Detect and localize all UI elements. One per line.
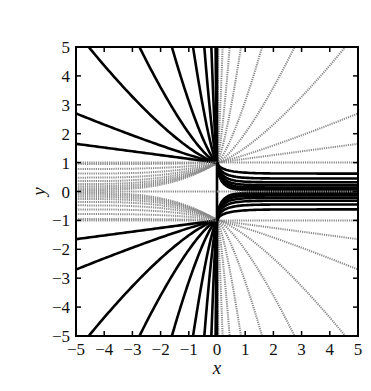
solid-curve: [217, 205, 358, 221]
phase-portrait-chart: −5−4−3−2−1012345 543210−1−2−3−4−5 x y: [0, 0, 371, 391]
y-tick-label: −2: [52, 240, 70, 259]
x-tick-label: 5: [354, 340, 363, 359]
dotted-curve: [217, 220, 345, 336]
y-tick-label: 4: [62, 67, 71, 86]
y-tick-label: 1: [62, 154, 71, 173]
y-tick-label: −4: [52, 298, 71, 317]
y-tick-label: 5: [62, 38, 71, 57]
y-tick-labels: 543210−1−2−3−4−5: [52, 38, 71, 346]
x-tick-label: 1: [241, 340, 250, 359]
x-tick-label: −1: [180, 340, 198, 359]
dotted-curve: [217, 47, 345, 163]
y-axis-label: y: [28, 187, 49, 198]
y-tick-label: 2: [62, 125, 71, 144]
solid-curve: [217, 163, 358, 179]
x-tick-label: 4: [326, 340, 335, 359]
solid-curve: [217, 209, 358, 220]
x-axis-label: x: [212, 357, 222, 378]
x-tick-label: 3: [297, 340, 306, 359]
x-tick-label: −2: [152, 340, 170, 359]
y-tick-label: −3: [52, 269, 70, 288]
y-tick-label: −5: [52, 327, 70, 346]
solid-curve: [217, 163, 358, 174]
x-tick-label: −4: [95, 340, 114, 359]
y-tick-label: 0: [62, 183, 71, 202]
x-tick-label: 2: [269, 340, 278, 359]
solution-curves: [76, 47, 358, 336]
x-tick-label: −3: [123, 340, 141, 359]
y-tick-label: −1: [52, 211, 70, 230]
y-tick-label: 3: [62, 96, 71, 115]
